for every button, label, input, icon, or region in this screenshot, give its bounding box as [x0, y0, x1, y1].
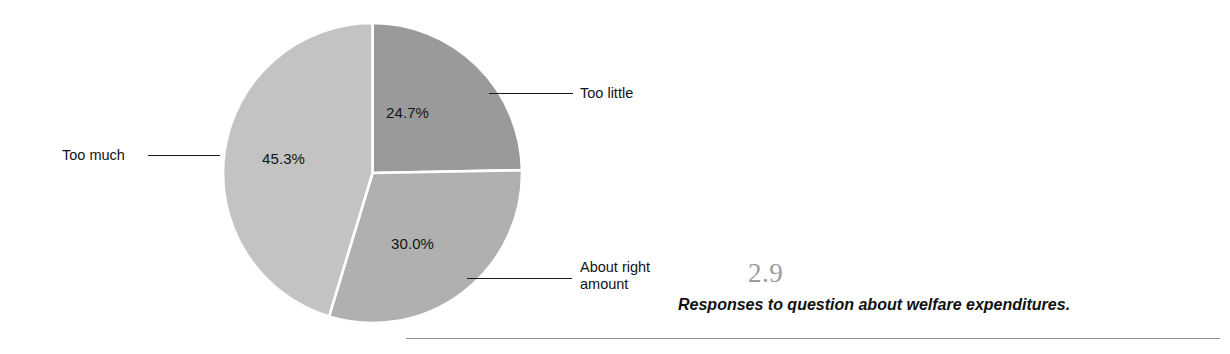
callout-label-too-much: Too much [62, 147, 125, 164]
pie-slice-too-little[interactable] [373, 23, 522, 173]
leader-line-about-right [467, 278, 572, 279]
callout-label-about-right-line2: amount [580, 276, 628, 292]
slice-value-about-right: 30.0% [391, 235, 434, 252]
leader-line-too-little [489, 93, 573, 94]
slice-value-too-little: 24.7% [386, 104, 429, 121]
slice-value-too-much: 45.3% [262, 150, 305, 167]
caption-divider-rule [406, 338, 1220, 339]
callout-label-about-right-line1: About right [580, 259, 650, 275]
callout-label-too-little: Too little [580, 85, 633, 102]
figure-number: 2.9 [748, 258, 783, 289]
callout-label-about-right: About rightamount [580, 259, 650, 293]
figure-container: 24.7% 30.0% 45.3% Too little About right… [0, 0, 1230, 354]
leader-line-too-much [148, 155, 220, 156]
figure-caption: Responses to question about welfare expe… [678, 296, 1070, 314]
